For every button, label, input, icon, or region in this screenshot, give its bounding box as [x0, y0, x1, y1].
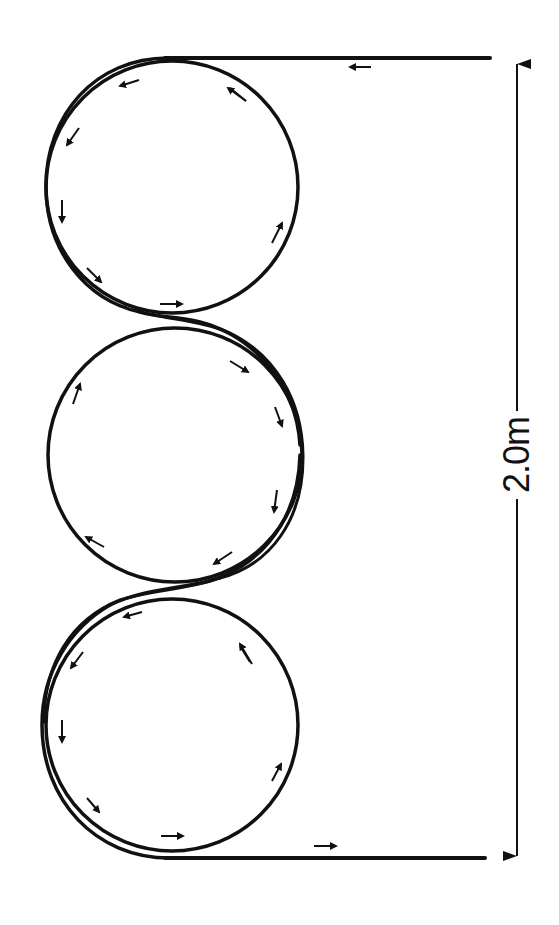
arrow-icon: [67, 128, 79, 145]
arrow-icon: [120, 80, 139, 86]
dimension-label: 2.0m: [496, 411, 538, 499]
arrow-icon: [240, 644, 252, 664]
arrow-icon: [71, 652, 83, 668]
middle-circle: [48, 328, 302, 582]
arrow-icon: [275, 407, 282, 426]
arrow-icon: [86, 537, 104, 547]
arrow-icon: [73, 384, 80, 404]
arrow-icon: [214, 552, 232, 564]
arrow-icon: [274, 490, 277, 512]
arrow-icon: [230, 361, 248, 372]
serpentine-path-diagram: [0, 0, 559, 925]
top-circle-outer-wrap: [46, 58, 168, 312]
arrow-icon: [87, 798, 99, 812]
arrow-icon: [272, 764, 281, 781]
direction-arrows: [62, 67, 371, 846]
top-circle: [46, 61, 298, 313]
arrow-icon: [228, 88, 246, 101]
bottom-circle: [46, 599, 298, 851]
arrow-icon: [272, 223, 282, 243]
arrow-icon: [124, 612, 142, 617]
